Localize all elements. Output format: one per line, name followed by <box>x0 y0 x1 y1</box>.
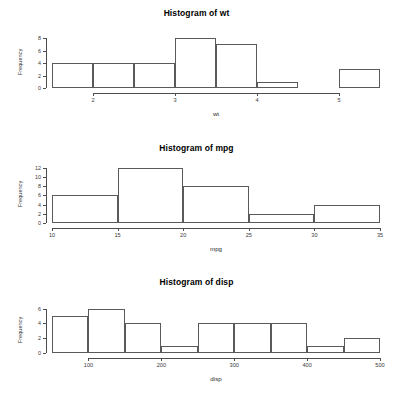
y-axis-label: Frequency <box>17 32 23 92</box>
y-axis-tick <box>43 353 46 354</box>
y-axis-tick-label: 0 <box>26 220 41 226</box>
x-axis-tick-label: 30 <box>311 232 317 238</box>
x-axis-tick-label: 20 <box>180 232 186 238</box>
histogram-bar <box>52 316 88 353</box>
histogram-bar <box>314 205 380 223</box>
x-axis-tick-label: 10 <box>49 232 55 238</box>
y-axis-tick-label: 6 <box>26 192 41 198</box>
chart-title: Histogram of wt <box>0 8 393 18</box>
y-axis-tick <box>43 214 46 215</box>
histogram-bar <box>271 323 307 353</box>
chart-panel-disp: Histogram of disp1002003004005000246disp… <box>0 269 393 404</box>
chart-title: Histogram of mpg <box>0 143 393 153</box>
histogram-bar <box>52 195 118 223</box>
x-axis-tick <box>183 228 184 231</box>
x-axis-tick-label: 5 <box>337 97 340 103</box>
x-axis-tick <box>307 358 308 361</box>
histogram-bar <box>183 186 249 223</box>
x-axis-tick-label: 200 <box>157 362 166 368</box>
y-axis-tick-label: 0 <box>26 85 41 91</box>
x-axis-tick <box>380 358 381 361</box>
x-axis-tick-label: 2 <box>91 97 94 103</box>
histogram-bar <box>175 38 216 88</box>
x-axis-tick-label: 400 <box>302 362 311 368</box>
y-axis-tick-label: 4 <box>26 60 41 66</box>
y-axis-tick-label: 8 <box>26 35 41 41</box>
x-axis-tick-label: 35 <box>377 232 383 238</box>
x-axis-tick <box>161 358 162 361</box>
chart-panel-wt: Histogram of wt234502468wtFrequency <box>0 0 393 135</box>
y-axis-tick <box>43 168 46 169</box>
x-axis-tick <box>339 93 340 96</box>
chart-panel-mpg: Histogram of mpg101520253035024681012mpg… <box>0 135 393 270</box>
x-axis-tick <box>234 358 235 361</box>
x-axis-tick-label: 15 <box>114 232 120 238</box>
histogram-bar <box>198 323 234 353</box>
chart-title: Histogram of disp <box>0 277 393 287</box>
x-axis-tick <box>175 93 176 96</box>
y-axis-tick <box>43 323 46 324</box>
y-axis-tick <box>43 223 46 224</box>
x-axis-label: mpg <box>210 245 222 252</box>
x-axis-tick <box>257 93 258 96</box>
y-axis-tick-label: 4 <box>26 202 41 208</box>
x-axis-line <box>93 93 339 94</box>
histogram-bar <box>234 323 270 353</box>
y-axis-tick-label: 0 <box>26 350 41 356</box>
histogram-bar <box>52 63 93 88</box>
x-axis-tick <box>52 228 53 231</box>
y-axis-tick-label: 2 <box>26 335 41 341</box>
histogram-bar <box>161 346 197 353</box>
y-axis-tick-label: 4 <box>26 320 41 326</box>
y-axis-tick <box>43 338 46 339</box>
x-axis-tick-label: 25 <box>246 232 252 238</box>
y-axis-tick <box>43 195 46 196</box>
x-axis-tick <box>118 228 119 231</box>
y-axis-tick <box>43 309 46 310</box>
histogram-bar <box>307 346 343 353</box>
histogram-bar <box>125 323 161 353</box>
x-axis-label: disp <box>210 375 221 382</box>
y-axis-tick-label: 10 <box>26 174 41 180</box>
y-axis-tick-label: 12 <box>26 165 41 171</box>
y-axis-tick-label: 6 <box>26 306 41 312</box>
y-axis-tick <box>43 38 46 39</box>
y-axis-tick <box>43 51 46 52</box>
x-axis-tick-label: 300 <box>230 362 239 368</box>
y-axis-line <box>46 309 47 353</box>
y-axis-line <box>46 38 47 88</box>
y-axis-tick <box>43 63 46 64</box>
y-axis-tick <box>43 205 46 206</box>
y-axis-line <box>46 168 47 223</box>
histogram-bar <box>118 168 184 223</box>
x-axis-tick <box>380 228 381 231</box>
histogram-bar <box>257 82 298 88</box>
x-axis-tick <box>314 228 315 231</box>
histogram-bar <box>93 63 134 88</box>
x-axis-tick-label: 500 <box>375 362 384 368</box>
x-axis-line <box>52 228 380 229</box>
x-axis-tick-label: 100 <box>84 362 93 368</box>
x-axis-label: wt <box>213 110 219 117</box>
y-axis-tick-label: 6 <box>26 48 41 54</box>
y-axis-tick-label: 8 <box>26 183 41 189</box>
y-axis-label: Frequency <box>17 164 23 224</box>
histogram-bar <box>216 44 257 88</box>
y-axis-tick <box>43 76 46 77</box>
x-axis-tick-label: 3 <box>173 97 176 103</box>
y-axis-tick-label: 2 <box>26 211 41 217</box>
x-axis-tick <box>249 228 250 231</box>
y-axis-tick <box>43 186 46 187</box>
y-axis-label: Frequency <box>17 300 23 360</box>
y-axis-tick <box>43 177 46 178</box>
x-axis-tick-label: 4 <box>255 97 258 103</box>
y-axis-tick-label: 2 <box>26 73 41 79</box>
histogram-bar <box>344 338 380 353</box>
y-axis-tick <box>43 88 46 89</box>
x-axis-tick <box>93 93 94 96</box>
histogram-bar <box>134 63 175 88</box>
histogram-bar <box>339 69 380 88</box>
histogram-bar <box>88 309 124 353</box>
histogram-bar <box>249 214 315 223</box>
x-axis-tick <box>88 358 89 361</box>
